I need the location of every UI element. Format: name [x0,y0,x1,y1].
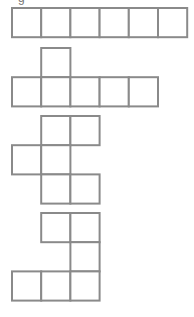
net-square [41,145,70,174]
net-square [70,242,99,271]
net-3-zigzag [12,116,100,204]
net-square [41,8,70,37]
net-square [129,8,158,37]
net-square [12,271,41,300]
net-square [12,8,41,37]
net-square [70,213,99,242]
net-1-row-of-six [12,8,187,37]
net-square [41,174,70,203]
net-4-hook [12,213,100,301]
net-square [41,213,70,242]
net-square [70,8,99,37]
net-square [41,77,70,106]
net-square [12,145,41,174]
net-square [100,8,129,37]
net-square [12,77,41,106]
cube-nets-diagram [0,0,194,317]
net-square [70,77,99,106]
net-square [158,8,187,37]
net-square [100,77,129,106]
net-square [41,116,70,145]
net-square [41,48,70,77]
net-square [70,116,99,145]
net-2-row-of-five-with-tab [12,48,158,106]
net-square [129,77,158,106]
net-square [41,271,70,300]
net-square [70,174,99,203]
net-square [70,271,99,300]
